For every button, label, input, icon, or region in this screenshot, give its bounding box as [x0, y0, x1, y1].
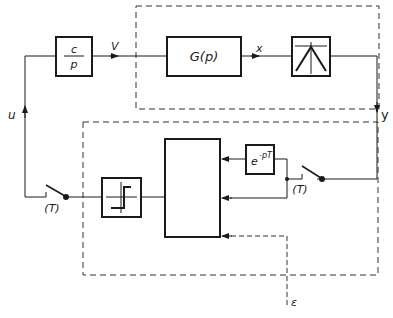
relay-block [102, 178, 141, 217]
plant-label: G(p) [190, 49, 218, 64]
signal-x-label: x [255, 42, 263, 55]
signal-u-label: u [8, 108, 16, 122]
signal-epsilon-label: ε [291, 296, 297, 309]
delay-block: e -pT [246, 145, 274, 174]
block-diagram: c p G(p) V x y (T) e -pT [0, 0, 393, 318]
signal-v-label: V [111, 40, 120, 53]
output-sampler-label: (T) [292, 183, 307, 196]
peak-nonlinearity-block [292, 37, 330, 76]
delay-exponent: -pT [259, 151, 273, 160]
signal-y-label: y [381, 107, 389, 122]
output-sampler-switch: (T) [285, 166, 325, 196]
input-sampler-label: (T) [44, 202, 59, 215]
integrator-numerator: c [71, 43, 77, 56]
integrator-block: c p [56, 37, 92, 76]
input-sampler-switch: (T) [25, 185, 69, 215]
integrator-denominator: p [70, 58, 78, 71]
plant-block: G(p) [167, 37, 241, 76]
controller-block [165, 139, 220, 237]
delay-base: e [251, 155, 258, 168]
